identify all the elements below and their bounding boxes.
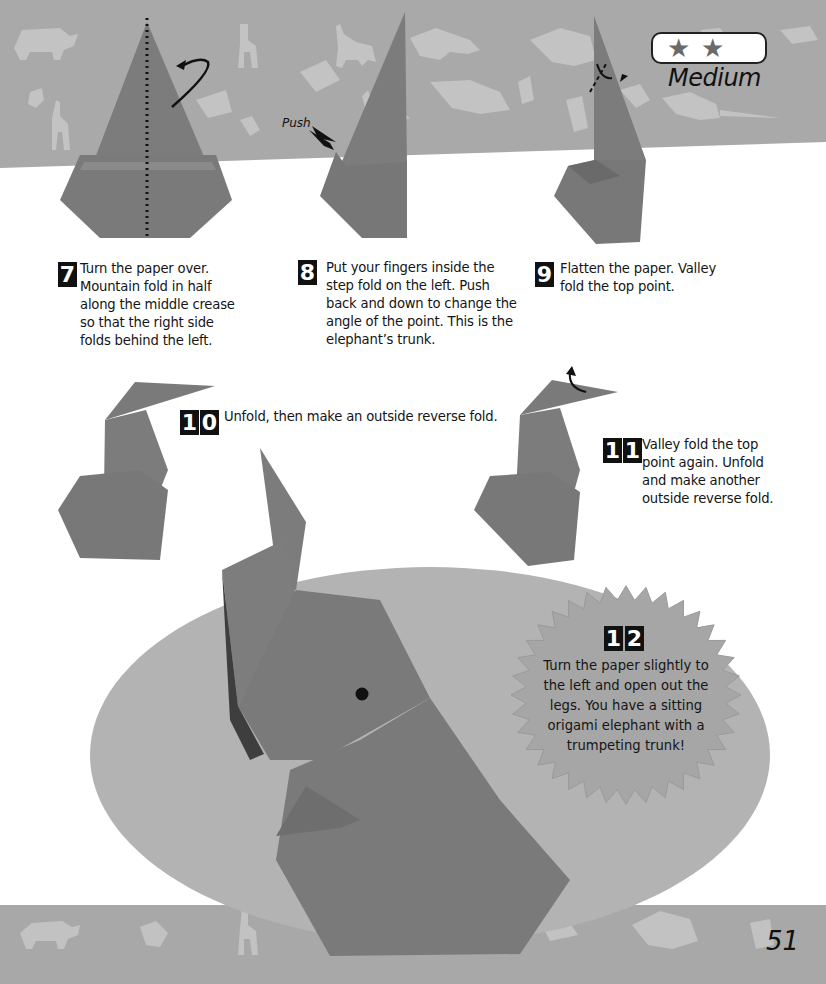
text-line: Put your fingers inside the [326,259,517,277]
text-line: along the middle crease [80,296,235,314]
step-11-model-icon [474,366,618,566]
text-line: step fold on the left. Push [326,277,517,295]
text-line: Valley fold the top [642,436,773,454]
text-line: elephant’s trunk. [326,331,517,349]
text-line: Unfold, then make an outside reverse fol… [224,408,497,426]
text-line: origami elephant with a [528,716,724,736]
step-9-model-icon [554,16,646,244]
difficulty-rating-badge: ★ ★ [651,32,767,64]
text-line: Flatten the paper. Valley [560,260,716,278]
step-11-instructions: Valley fold the top point again. Unfold … [642,436,773,508]
text-line: the left and open out the [528,676,724,696]
step-11-number-badge-digit: 1 [623,438,642,463]
text-line: folds behind the left. [80,332,235,350]
step-12-instructions: Turn the paper slightly to the left and … [528,656,724,756]
text-line: so that the right side [80,314,235,332]
step-12-number-badge-digit: 2 [625,626,644,651]
step-8-model-icon [309,12,407,238]
text-line: angle of the point. This is the [326,313,517,331]
text-line: Turn the paper over. [80,260,235,278]
text-line: Turn the paper slightly to [528,656,724,676]
text-line: legs. You have a sitting [528,696,724,716]
elephant-eye [356,688,369,701]
step-10-number-badge-digit: 1 [180,410,199,435]
step-7-model-icon [60,18,232,240]
step-9-instructions: Flatten the paper. Valley fold the top p… [560,260,716,296]
text-line: trumpeting trunk! [528,736,724,756]
text-line: outside reverse fold. [642,490,773,508]
step-9-number-badge: 9 [535,262,554,287]
step-8-number-badge: 8 [298,260,317,285]
step-10-model-icon [58,382,215,560]
step-11-number-badge-digit: 1 [603,438,622,463]
step-12-number-badge-digit: 1 [604,626,623,651]
difficulty-label: Medium [668,64,761,92]
text-line: Mountain fold in half [80,278,235,296]
push-annotation-label: Push [282,116,311,130]
text-line: back and down to change the [326,295,517,313]
step-8-instructions: Put your fingers inside the step fold on… [326,259,517,349]
text-line: fold the top point. [560,278,716,296]
step-10-number-badge-digit: 0 [200,410,219,435]
star-filled-icon: ★ [701,32,724,64]
text-line: point again. Unfold [642,454,773,472]
step-10-instructions: Unfold, then make an outside reverse fol… [224,408,497,426]
page-number: 51 [766,926,799,956]
step-7-number-badge: 7 [58,262,77,287]
star-filled-icon: ★ [667,32,690,64]
step-7-instructions: Turn the paper over. Mountain fold in ha… [80,260,235,350]
text-line: and make another [642,472,773,490]
